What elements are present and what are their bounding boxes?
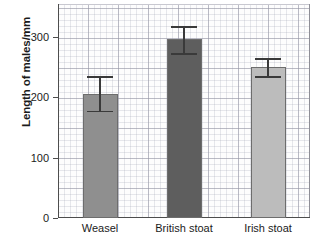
y-tick-100 [53, 158, 58, 159]
y-tick-label-200: 200 [31, 91, 49, 103]
x-label-british-stoat: British stoat [155, 222, 212, 234]
y-tick-200 [53, 97, 58, 98]
plot-right-border [309, 4, 310, 218]
plot-area: 0100200300 [58, 4, 310, 218]
chart-figure: Length of males/mm 0100200300 WeaselBrit… [0, 0, 320, 239]
error-bar-irish-stoat [255, 58, 281, 78]
bar-weasel [83, 94, 118, 218]
y-tick-label-0: 0 [43, 212, 49, 224]
y-axis-line [58, 4, 59, 218]
y-tick-label-300: 300 [31, 31, 49, 43]
error-cap-lower [171, 53, 197, 55]
bar-british-stoat [167, 39, 202, 218]
y-tick-label-100: 100 [31, 152, 49, 164]
error-cap-lower [255, 76, 281, 78]
y-axis-title: Length of males/mm [20, 0, 32, 162]
x-label-irish-stoat: Irish stoat [244, 222, 292, 234]
x-label-weasel: Weasel [82, 222, 118, 234]
error-stem [267, 58, 269, 78]
y-tick-300 [53, 37, 58, 38]
bar-irish-stoat [251, 67, 286, 218]
error-cap-lower [87, 111, 113, 113]
plot-top-border [58, 4, 310, 5]
error-bar-british-stoat [171, 26, 197, 55]
error-stem [99, 76, 101, 112]
error-stem [183, 26, 185, 55]
y-tick-0 [53, 218, 58, 219]
error-bar-weasel [87, 76, 113, 112]
